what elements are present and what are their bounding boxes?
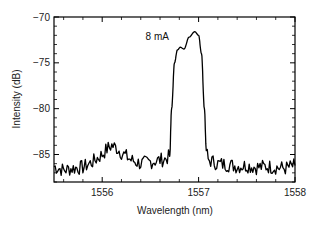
y-tick-label: −80 xyxy=(33,103,50,114)
chart: −70−75−80−85 155615571558 8 mA Wavelengt… xyxy=(0,0,320,225)
y-tick-label: −70 xyxy=(33,12,50,23)
plot-frame xyxy=(54,17,295,182)
x-tick-label: 1557 xyxy=(187,187,210,198)
x-tick-label: 1556 xyxy=(91,187,114,198)
x-tick-label: 1558 xyxy=(284,187,307,198)
y-tick-label: −75 xyxy=(33,57,50,68)
y-axis-label: Intensity (dB) xyxy=(11,70,22,129)
x-axis-label: Wavelength (nm) xyxy=(137,205,213,216)
current-annotation: 8 mA xyxy=(146,31,170,42)
spectrum-line xyxy=(54,32,295,176)
y-tick-label: −85 xyxy=(33,149,50,160)
